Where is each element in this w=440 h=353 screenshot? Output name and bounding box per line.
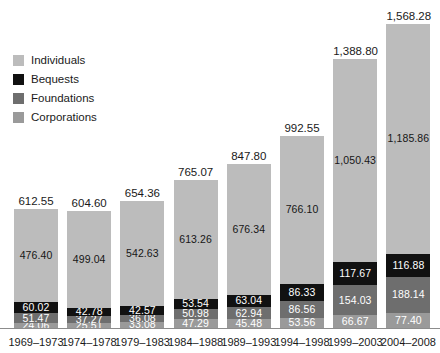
bar-segment-foundations[interactable]: 51.47 xyxy=(14,313,58,323)
bar-segment-value-label: 613.26 xyxy=(179,234,212,245)
bar-segment-individuals[interactable]: 1,185.86 xyxy=(386,24,430,254)
legend-item-label: Individuals xyxy=(31,55,85,66)
bar-segment-value-label: 1,050.43 xyxy=(334,155,376,166)
bar-total-label: 992.55 xyxy=(280,122,324,134)
bar-segment-value-label: 86.33 xyxy=(289,287,316,298)
bar-segment-value-label: 542.63 xyxy=(126,248,159,259)
bar-segment-value-label: 42.78 xyxy=(76,308,103,316)
bar-group[interactable]: 654.3633.0836.0842.57542.63 xyxy=(120,187,164,328)
bar-segment-value-label: 77.40 xyxy=(395,315,422,326)
bar-segment-corporations[interactable]: 47.29 xyxy=(174,319,218,328)
bar-group[interactable]: 765.0747.2950.9853.54613.26 xyxy=(174,166,218,328)
bar-segment-corporations[interactable]: 66.67 xyxy=(333,315,377,328)
bar-segment-individuals[interactable]: 613.26 xyxy=(174,180,218,299)
x-axis-tick-label: 1974–1978 xyxy=(61,336,117,348)
bar-group[interactable]: 612.5524.0651.4760.02476.40 xyxy=(14,195,58,328)
bar-segment-foundations[interactable]: 86.56 xyxy=(280,301,324,318)
bar-stack: 24.0651.4760.02476.40 xyxy=(14,209,58,328)
bar-total-label: 1,388.80 xyxy=(333,45,377,57)
bar-segment-bequests[interactable]: 42.78 xyxy=(67,308,111,316)
bar-segment-bequests[interactable]: 116.88 xyxy=(386,254,430,277)
bar-segment-value-label: 53.54 xyxy=(182,299,209,309)
bar-segment-corporations[interactable]: 53.56 xyxy=(280,318,324,328)
bar-segment-foundations[interactable]: 50.98 xyxy=(174,309,218,319)
x-axis-tick-label: 1999–2003 xyxy=(327,336,383,348)
legend-swatch-icon xyxy=(13,74,24,85)
bar-segment-foundations[interactable]: 37.27 xyxy=(67,316,111,323)
bar-total-label: 604.60 xyxy=(67,197,111,209)
legend-item[interactable]: Foundations xyxy=(13,90,97,106)
bar-group[interactable]: 604.6025.5137.2742.78499.04 xyxy=(67,197,111,328)
bar-segment-value-label: 117.67 xyxy=(339,268,371,279)
bar-segment-bequests[interactable]: 60.02 xyxy=(14,302,58,314)
legend-swatch-icon xyxy=(13,93,24,104)
plot-area: 612.5524.0651.4760.02476.40604.6025.5137… xyxy=(0,0,440,328)
bar-segment-value-label: 47.29 xyxy=(182,319,209,328)
bar-segment-foundations[interactable]: 62.94 xyxy=(227,307,271,319)
x-axis-line xyxy=(0,328,440,329)
bar-segment-bequests[interactable]: 86.33 xyxy=(280,284,324,301)
bar-segment-value-label: 37.27 xyxy=(76,316,103,323)
bar-segment-individuals[interactable]: 542.63 xyxy=(120,201,164,306)
bar-segment-foundations[interactable]: 36.08 xyxy=(120,315,164,322)
bar-segment-individuals[interactable]: 476.40 xyxy=(14,209,58,301)
bar-stack: 47.2950.9853.54613.26 xyxy=(174,180,218,328)
x-axis-tick-label: 1994–1998 xyxy=(274,336,330,348)
bar-segment-foundations[interactable]: 188.14 xyxy=(386,277,430,313)
legend-swatch-icon xyxy=(13,55,24,66)
bar-segment-value-label: 53.56 xyxy=(289,318,316,328)
bar-total-label: 847.80 xyxy=(227,150,271,162)
x-axis-tick-label: 1984–1988 xyxy=(168,336,224,348)
bar-total-label: 654.36 xyxy=(120,187,164,199)
bar-segment-value-label: 66.67 xyxy=(342,316,369,327)
bar-group[interactable]: 1,568.2877.40188.14116.881,185.86 xyxy=(386,10,430,328)
bar-segment-value-label: 63.04 xyxy=(235,295,262,306)
x-axis-tick-labels: 1969–19731974–19781979–19831984–19881989… xyxy=(0,331,440,353)
legend-item[interactable]: Bequests xyxy=(13,71,97,87)
bar-segment-foundations[interactable]: 154.03 xyxy=(333,285,377,315)
bar-segment-value-label: 45.48 xyxy=(235,319,262,328)
bar-group[interactable]: 1,388.8066.67154.03117.671,050.43 xyxy=(333,45,377,328)
bar-segment-value-label: 36.08 xyxy=(129,315,156,322)
x-axis-tick-label: 2004–2008 xyxy=(380,336,436,348)
bar-segment-corporations[interactable]: 45.48 xyxy=(227,319,271,328)
bar-segment-value-label: 51.47 xyxy=(23,313,50,323)
bar-segment-value-label: 1,185.86 xyxy=(388,133,430,144)
legend-item[interactable]: Corporations xyxy=(13,109,97,125)
bar-segment-value-label: 676.34 xyxy=(232,224,265,235)
bar-segment-individuals[interactable]: 1,050.43 xyxy=(333,59,377,263)
bar-segment-value-label: 476.40 xyxy=(20,250,53,261)
bar-segment-bequests[interactable]: 53.54 xyxy=(174,299,218,309)
bar-segment-bequests[interactable]: 117.67 xyxy=(333,262,377,285)
stacked-bar-chart: 612.5524.0651.4760.02476.40604.6025.5137… xyxy=(0,0,440,353)
bar-segment-value-label: 50.98 xyxy=(182,309,209,319)
bar-segment-individuals[interactable]: 499.04 xyxy=(67,211,111,308)
bar-group[interactable]: 992.5553.5686.5686.33766.10 xyxy=(280,122,324,328)
bar-group[interactable]: 847.8045.4862.9463.04676.34 xyxy=(227,150,271,328)
bar-stack: 33.0836.0842.57542.63 xyxy=(120,201,164,328)
bar-segment-bequests[interactable]: 42.57 xyxy=(120,306,164,314)
x-axis-tick-label: 1989–1993 xyxy=(221,336,277,348)
bar-total-label: 765.07 xyxy=(174,166,218,178)
bar-total-label: 1,568.28 xyxy=(386,10,430,22)
bar-segment-corporations[interactable]: 77.40 xyxy=(386,313,430,328)
bar-segment-value-label: 42.57 xyxy=(129,306,156,314)
bar-segment-value-label: 154.03 xyxy=(339,295,372,306)
legend-item[interactable]: Individuals xyxy=(13,52,97,68)
bar-segment-bequests[interactable]: 63.04 xyxy=(227,295,271,307)
bar-stack: 25.5137.2742.78499.04 xyxy=(67,211,111,328)
bar-segment-value-label: 86.56 xyxy=(289,304,316,315)
bar-total-label: 612.55 xyxy=(14,195,58,207)
bar-segment-value-label: 188.14 xyxy=(392,289,425,300)
bar-segment-individuals[interactable]: 766.10 xyxy=(280,136,324,285)
bar-segment-value-label: 116.88 xyxy=(392,260,424,271)
bar-stack: 53.5686.5686.33766.10 xyxy=(280,136,324,328)
legend-item-label: Corporations xyxy=(31,112,97,123)
bar-segment-value-label: 766.10 xyxy=(286,204,319,215)
bar-segment-value-label: 62.94 xyxy=(235,308,262,319)
x-axis-tick-label: 1979–1983 xyxy=(114,336,170,348)
bar-segment-individuals[interactable]: 676.34 xyxy=(227,164,271,295)
bar-segment-value-label: 60.02 xyxy=(23,302,50,313)
bar-stack: 77.40188.14116.881,185.86 xyxy=(386,24,430,328)
legend-swatch-icon xyxy=(13,112,24,123)
